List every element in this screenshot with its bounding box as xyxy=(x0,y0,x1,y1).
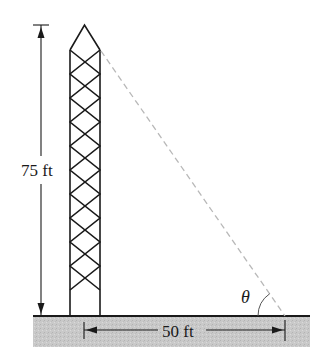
tower-diagram: θ 75 ft 50 ft xyxy=(0,0,319,350)
lattice-tower xyxy=(70,25,100,316)
angle-arc xyxy=(258,294,270,316)
sight-line xyxy=(101,51,285,316)
height-label: 75 ft xyxy=(21,161,53,180)
angle-label: θ xyxy=(241,287,250,307)
distance-label: 50 ft xyxy=(162,322,194,341)
